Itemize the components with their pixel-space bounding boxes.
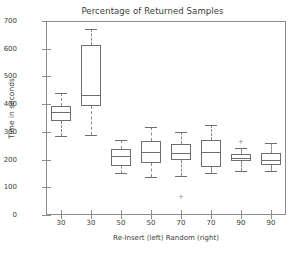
x-tick-mark-inner (151, 210, 152, 214)
y-tick-label: 600 (0, 45, 17, 53)
cap-upper (145, 127, 157, 128)
y-tick-mark-inner (47, 160, 51, 161)
whisker-lower (271, 165, 272, 172)
cap-upper (55, 93, 67, 94)
whisker-lower (241, 161, 242, 171)
y-tick-label: 100 (0, 183, 17, 191)
y-tick-label: 700 (0, 17, 17, 25)
y-tick-label: 0 (0, 211, 17, 219)
x-tick-mark-inner (91, 210, 92, 214)
x-tick-mark (271, 215, 272, 219)
chart-title: Percentage of Returned Samples (0, 6, 305, 16)
y-tick-label: 200 (0, 156, 17, 164)
cap-lower (85, 135, 97, 136)
median-line (141, 152, 161, 153)
y-tick-label: 300 (0, 128, 17, 136)
outlier-marker: + (238, 139, 244, 146)
whisker-upper (121, 140, 122, 149)
whisker-upper (91, 29, 92, 45)
whisker-upper (211, 125, 212, 140)
x-tick-mark (151, 215, 152, 219)
cap-lower (115, 173, 127, 174)
box-iqr (81, 45, 101, 105)
whisker-lower (121, 166, 122, 173)
x-tick-label: 90 (251, 219, 291, 227)
x-tick-mark-inner (241, 210, 242, 214)
y-tick-mark-inner (47, 21, 51, 22)
whisker-lower (91, 106, 92, 136)
median-line (201, 152, 221, 153)
x-tick-mark (121, 215, 122, 219)
x-tick-mark (91, 215, 92, 219)
median-line (111, 156, 131, 157)
whisker-lower (61, 121, 62, 136)
x-axis-label: Re-Insert (left) Random (right) (46, 234, 286, 242)
y-tick-label: 500 (0, 72, 17, 80)
x-tick-mark (61, 215, 62, 219)
cap-lower (205, 173, 217, 174)
cap-upper (205, 125, 217, 126)
y-tick-mark-inner (47, 76, 51, 77)
outlier-marker: + (178, 193, 184, 200)
x-tick-mark (181, 215, 182, 219)
y-tick-mark-inner (47, 132, 51, 133)
x-tick-mark-inner (211, 210, 212, 214)
whisker-lower (151, 163, 152, 177)
cap-upper (235, 148, 247, 149)
x-tick-mark (211, 215, 212, 219)
median-line (171, 153, 191, 154)
cap-lower (175, 176, 187, 177)
x-tick-mark-inner (61, 210, 62, 214)
cap-lower (145, 177, 157, 178)
x-tick-mark (241, 215, 242, 219)
boxplot-figure: Percentage of Returned Samples Time in s… (0, 0, 305, 256)
y-tick-mark-inner (47, 187, 51, 188)
whisker-upper (151, 127, 152, 141)
x-tick-mark-inner (271, 210, 272, 214)
median-line (261, 160, 281, 161)
x-tick-mark-inner (121, 210, 122, 214)
whisker-lower (181, 160, 182, 176)
whisker-upper (61, 93, 62, 105)
y-tick-label: 400 (0, 100, 17, 108)
cap-upper (265, 143, 277, 144)
cap-lower (55, 136, 67, 137)
cap-upper (175, 132, 187, 133)
box-iqr (201, 140, 221, 168)
median-line (81, 95, 101, 96)
y-axis-label: Time in seconds (7, 54, 16, 164)
cap-lower (235, 171, 247, 172)
y-tick-mark-inner (47, 215, 51, 216)
cap-upper (85, 29, 97, 30)
box-iqr (111, 149, 131, 166)
whisker-upper (181, 132, 182, 144)
x-tick-mark-inner (181, 210, 182, 214)
median-line (51, 112, 71, 113)
box-iqr (171, 144, 191, 161)
whisker-upper (271, 143, 272, 153)
cap-upper (115, 140, 127, 141)
median-line (231, 158, 251, 159)
cap-lower (265, 171, 277, 172)
y-tick-mark-inner (47, 49, 51, 50)
